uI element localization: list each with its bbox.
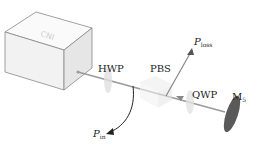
p-loss-arrowhead [187,48,194,55]
pbs-label: PBS [150,64,171,74]
qwp-label: QWP [192,90,217,100]
p-in-label: Pin [93,129,106,140]
p-in-arrowhead [106,128,114,135]
hwp-label: HWP [98,64,124,74]
pbs-cube [140,76,172,108]
p-in-curve [110,86,133,132]
p-loss-label: Ploss [194,37,212,48]
optical-diagram: CNI [0,0,261,153]
laser-box: CNI [5,12,92,90]
mirror-label: M5 [232,92,246,103]
